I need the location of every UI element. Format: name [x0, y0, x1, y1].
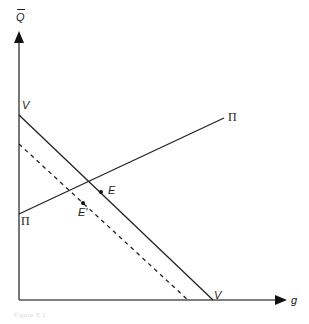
pi-line-end-label: Π	[228, 111, 237, 123]
v-line-end-label: V	[214, 290, 221, 301]
x-axis-label: g	[291, 295, 297, 306]
diagram-canvas	[0, 0, 309, 324]
point-e-label: E	[108, 185, 115, 196]
point-e-prime	[81, 201, 85, 205]
x-axis-arrow-icon	[275, 295, 287, 305]
v-shifted-dashed-line	[19, 144, 188, 300]
pi-line-start-label: Π	[21, 215, 30, 227]
y-axis-arrow-icon	[14, 31, 24, 43]
point-e	[99, 190, 103, 194]
point-e-prime-label: E'	[78, 207, 87, 218]
v-line	[19, 115, 213, 300]
figure-caption: Figure 5.1	[14, 312, 46, 318]
pi-line	[19, 118, 224, 214]
y-axis-label: Q	[16, 11, 25, 23]
v-line-start-label: V	[22, 100, 29, 111]
